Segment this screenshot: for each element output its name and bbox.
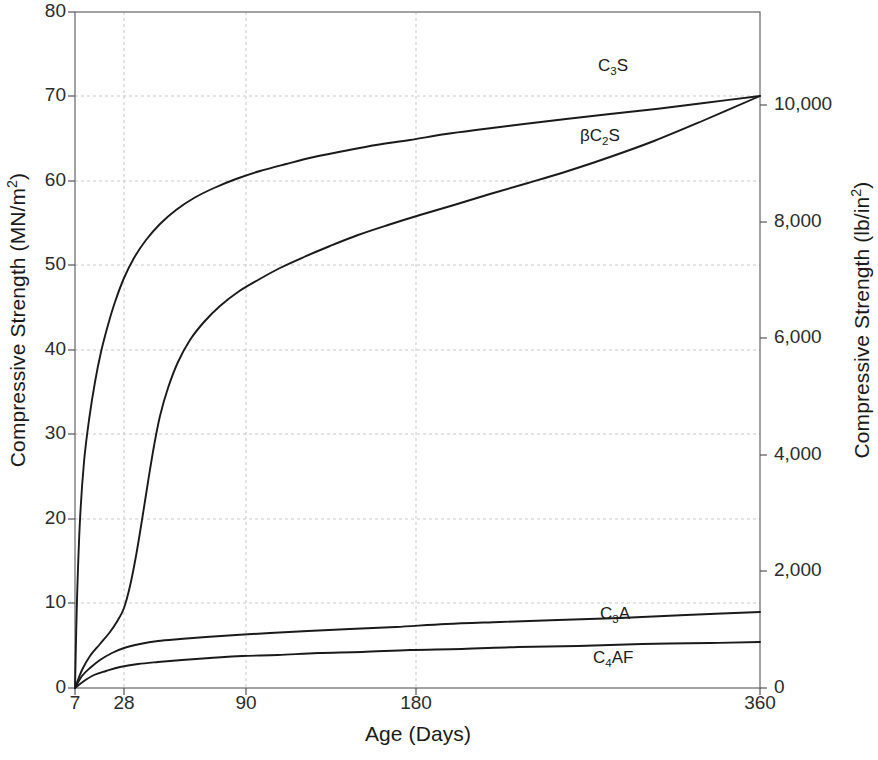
- left-tick-label: 70: [8, 84, 66, 106]
- left-tick-label: 60: [8, 169, 66, 191]
- horizontal-gridlines: [75, 96, 760, 603]
- left-tick-label: 40: [8, 338, 66, 360]
- right-tick-label: 6,000: [774, 326, 854, 348]
- data-curves: [75, 96, 760, 688]
- left-axis-ticks: [68, 12, 75, 688]
- left-tick-label: 50: [8, 253, 66, 275]
- right-tick-label: 10,000: [774, 93, 854, 115]
- right-axis-ticks: [760, 105, 767, 688]
- right-tick-label: 2,000: [774, 559, 854, 581]
- x-axis-title: Age (Days): [75, 722, 761, 746]
- x-tick-label: 360: [720, 692, 800, 714]
- left-tick-label: 20: [8, 507, 66, 529]
- left-tick-label: 10: [8, 591, 66, 613]
- curve-4: [75, 642, 760, 688]
- x-tick-label: 180: [376, 692, 456, 714]
- curve-label-2: βC2S: [580, 126, 620, 147]
- curve-label-3: C3A: [600, 604, 630, 625]
- left-tick-label: 80: [8, 0, 66, 22]
- x-tick-label: 28: [84, 692, 164, 714]
- curve-2: [75, 96, 760, 688]
- right-tick-label: 4,000: [774, 443, 854, 465]
- right-tick-label: 8,000: [774, 210, 854, 232]
- x-tick-label: 90: [206, 692, 286, 714]
- left-tick-label: 30: [8, 422, 66, 444]
- curve-label-4: C4AF: [593, 648, 633, 669]
- curve-1: [75, 96, 760, 688]
- right-axis-title-superscript: 2: [848, 189, 864, 197]
- right-axis-title-tail: ): [850, 182, 873, 189]
- curve-label-1: C3S: [598, 56, 628, 77]
